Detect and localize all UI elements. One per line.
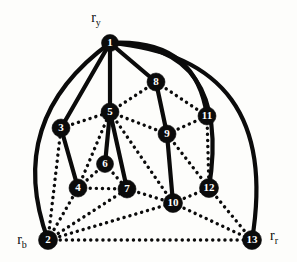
edge-1-2 [35, 43, 110, 240]
edge-11-12 [207, 116, 209, 188]
node-label-11: 11 [202, 109, 212, 121]
edge-10-13 [173, 203, 252, 240]
terminal-label-r_b: rb [17, 232, 27, 250]
node-label-1: 1 [107, 36, 113, 48]
graph-node-13[interactable]: 13 [243, 231, 262, 250]
graph-node-3[interactable]: 3 [52, 119, 70, 137]
node-label-12: 12 [204, 181, 216, 193]
edge-9-12 [167, 134, 209, 188]
terminal-label-r_y: ry [91, 10, 101, 28]
graph-node-10[interactable]: 10 [164, 194, 183, 213]
edge-2-7 [48, 189, 127, 240]
graph-node-12[interactable]: 12 [200, 179, 219, 198]
graph-figure: 12345678910111213 ryrbrr [0, 0, 297, 262]
node-label-9: 9 [164, 127, 170, 139]
node-label-8: 8 [153, 75, 159, 87]
graph-canvas: 12345678910111213 ryrbrr [0, 0, 297, 262]
edge-2-3 [48, 128, 61, 240]
terminal-subscript-r_b: b [22, 239, 27, 250]
node-label-2: 2 [45, 233, 51, 245]
terminal-subscript-r_r: r [275, 235, 279, 246]
graph-node-8[interactable]: 8 [147, 73, 165, 91]
terminal-label-r_r: rr [270, 228, 279, 246]
edge-layer [35, 43, 256, 240]
node-label-4: 4 [75, 181, 81, 193]
edge-9-10 [167, 134, 173, 203]
node-layer: 12345678910111213 [39, 35, 262, 250]
edge-3-4 [61, 128, 78, 188]
graph-node-5[interactable]: 5 [101, 103, 119, 121]
node-label-13: 13 [247, 233, 259, 245]
graph-node-9[interactable]: 9 [158, 125, 176, 143]
graph-node-1[interactable]: 1 [102, 35, 119, 52]
graph-node-6[interactable]: 6 [97, 156, 114, 173]
terminal-subscript-r_y: y [96, 17, 101, 28]
graph-node-4[interactable]: 4 [69, 179, 87, 197]
graph-node-7[interactable]: 7 [118, 180, 136, 198]
node-label-5: 5 [107, 105, 113, 117]
graph-node-11[interactable]: 11 [198, 107, 216, 125]
graph-node-2[interactable]: 2 [39, 231, 58, 250]
node-label-7: 7 [124, 182, 130, 194]
node-label-6: 6 [102, 157, 108, 169]
node-label-10: 10 [168, 196, 180, 208]
node-label-3: 3 [58, 121, 64, 133]
